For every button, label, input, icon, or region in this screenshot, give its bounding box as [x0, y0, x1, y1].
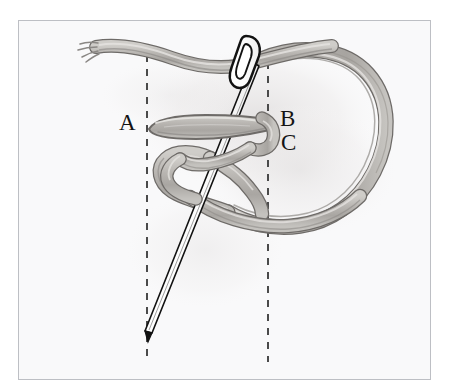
point-label-c: C [281, 131, 296, 154]
stitch-illustration-svg [0, 0, 452, 392]
figure-stage: A B C [0, 0, 452, 392]
point-label-a: A [119, 111, 136, 134]
diagram-canvas [0, 0, 452, 392]
point-label-b: B [280, 107, 295, 130]
